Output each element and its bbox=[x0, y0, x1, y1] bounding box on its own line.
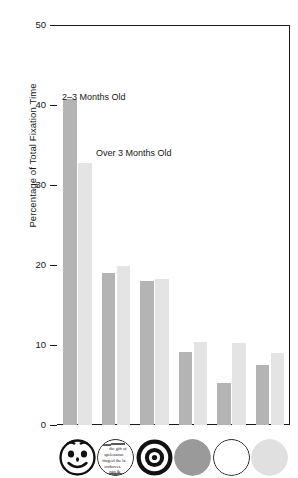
y-tick-mark bbox=[50, 25, 57, 26]
bar bbox=[217, 383, 231, 425]
newsprint-line bbox=[101, 444, 111, 446]
bar bbox=[155, 279, 169, 425]
newsprint-fill: the gift ofspelenaroofingeol the laorcho… bbox=[97, 439, 134, 476]
bar bbox=[232, 343, 246, 425]
newsprint-circle-icon: the gift ofspelenaroofingeol the laorcho… bbox=[97, 439, 134, 476]
y-tick-mark bbox=[50, 345, 57, 346]
bar bbox=[194, 342, 208, 425]
annotation-young: 2–3 Months Old bbox=[62, 92, 126, 102]
gray-disc-icon bbox=[174, 439, 211, 476]
white-disc-icon bbox=[213, 439, 250, 476]
y-tick-mark bbox=[50, 425, 57, 426]
bar bbox=[179, 352, 193, 425]
bar bbox=[117, 266, 131, 425]
smiley-face-icon bbox=[59, 439, 96, 476]
stimulus-icon-strip: the gift ofspelenaroofingeol the laorcho… bbox=[58, 437, 291, 478]
newsprint-word: spelenaroo bbox=[104, 452, 123, 457]
white-disc-fill bbox=[213, 439, 250, 476]
light-gray-disc-icon bbox=[251, 439, 288, 476]
bar-group bbox=[58, 25, 289, 425]
newsprint-word: fingeol the la bbox=[102, 458, 125, 463]
y-tick-mark bbox=[50, 105, 57, 106]
y-tick-label: 10 bbox=[6, 339, 46, 350]
annotation-older: Over 3 Months Old bbox=[96, 148, 172, 158]
bar bbox=[78, 163, 92, 425]
light-gray-disc-fill bbox=[251, 439, 288, 476]
newsprint-line bbox=[107, 473, 125, 475]
y-tick-label: 50 bbox=[6, 19, 46, 30]
y-tick-label: 20 bbox=[6, 259, 46, 270]
bar bbox=[256, 365, 270, 425]
y-tick-mark bbox=[50, 185, 57, 186]
y-tick-label: 30 bbox=[6, 179, 46, 190]
newsprint-line bbox=[111, 443, 125, 445]
bar bbox=[102, 273, 116, 425]
fixation-time-bar-chart: Percentage of Total Fixation Time 504030… bbox=[0, 0, 298, 478]
bar bbox=[63, 99, 77, 425]
bar bbox=[271, 353, 285, 425]
y-tick-label: 40 bbox=[6, 99, 46, 110]
bullseye-icon bbox=[136, 439, 173, 476]
y-axis-label: Percentage of Total Fixation Time bbox=[27, 36, 38, 276]
gray-disc-fill bbox=[174, 439, 211, 476]
y-tick-mark bbox=[50, 265, 57, 266]
bar bbox=[140, 281, 154, 425]
newsprint-word: the gift of bbox=[109, 446, 126, 451]
y-tick-label: 0 bbox=[6, 419, 46, 430]
